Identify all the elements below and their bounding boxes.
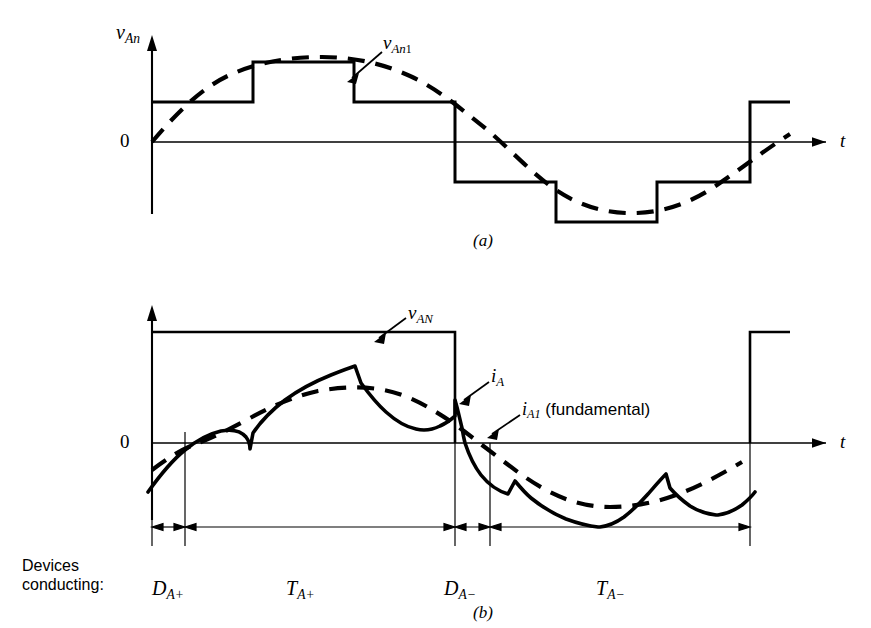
caption-a: (a)	[473, 232, 493, 249]
interval-label-t-a-minus: TA−	[596, 578, 625, 601]
caption-b: (b)	[473, 604, 493, 621]
panel-a	[147, 35, 826, 222]
panel-b-fundamental-label: iA1 (fundamental)	[522, 400, 650, 421]
panel-b-zero-label: 0	[120, 432, 130, 451]
panel-b-fundamental-annotation-arrow	[487, 415, 520, 440]
interval-label-t-a-plus: TA+	[286, 578, 315, 601]
panel-a-y-axis-label: vAn	[116, 22, 140, 45]
interval-label-d-a-plus: DA+	[152, 578, 184, 601]
panel-b	[147, 305, 826, 546]
panel-b-voltage-label: vAN	[408, 303, 433, 326]
panel-a-value-axis	[147, 35, 157, 214]
figure-canvas	[0, 0, 871, 628]
devices-conducting-label: Devices conducting:	[22, 556, 104, 594]
panel-a-time-axis	[152, 137, 826, 147]
interval-label-d-a-minus: DA−	[444, 578, 476, 601]
panel-a-fundamental-curve	[152, 57, 790, 213]
panel-b-current-label: iA	[491, 366, 504, 389]
panel-a-t-arrowhead	[812, 137, 826, 147]
panel-b-square-voltage-waveform	[152, 332, 790, 443]
panel-b-t-axis-label: t	[840, 432, 845, 451]
panel-a-annotation-arrow	[347, 52, 382, 84]
panel-b-line-current-waveform	[148, 366, 755, 527]
panel-b-interval-dimension-arrows	[152, 524, 750, 531]
panel-b-v-arrowhead	[147, 305, 157, 321]
panel-a-v-arrowhead	[147, 35, 157, 51]
panel-a-fundamental-label: vAn1	[383, 33, 412, 56]
panel-a-t-axis-label: t	[840, 131, 845, 150]
panel-b-interval-boundaries	[152, 432, 750, 546]
panel-a-zero-label: 0	[120, 131, 130, 150]
panel-b-current-annotation-arrow	[459, 382, 489, 406]
panel-b-t-arrowhead	[812, 438, 826, 448]
